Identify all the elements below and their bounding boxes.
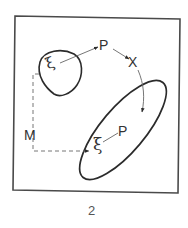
figure-caption: 2 (88, 204, 95, 217)
label-x: X (128, 55, 137, 69)
dashed-path-m (33, 74, 89, 151)
label-m: M (24, 128, 36, 142)
diagram-canvas (0, 0, 188, 228)
line-xi-to-p (103, 133, 118, 142)
arc-x-to-ellipse (138, 70, 144, 112)
diagram-figure: P X M P ξ ξ 2 (0, 0, 188, 228)
frame-border (13, 16, 180, 193)
label-xi-bottom: ξ (93, 136, 102, 153)
arrow-p-to-x (113, 49, 129, 59)
label-p-bottom: P (118, 124, 127, 138)
label-p-top: P (99, 38, 108, 52)
